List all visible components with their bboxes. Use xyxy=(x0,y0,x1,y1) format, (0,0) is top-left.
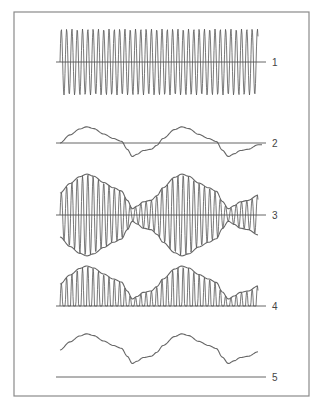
am-radio-diagram: 1 2 3 4 5 xyxy=(0,0,315,401)
modulation-envelope-top xyxy=(60,174,258,209)
panel-4-rectified-wave: 4 xyxy=(56,266,278,312)
rectified-wave xyxy=(60,267,258,306)
recovered-audio-wave xyxy=(60,334,258,364)
rectified-envelope xyxy=(60,266,258,299)
audio-signal-wave xyxy=(60,127,262,157)
panel-label-5: 5 xyxy=(272,372,278,383)
panel-label-2: 2 xyxy=(272,138,278,149)
panel-1-carrier-wave: 1 xyxy=(56,29,278,95)
diagram-frame xyxy=(14,12,309,396)
panel-3-modulated-wave: 3 xyxy=(56,174,278,256)
panel-label-4: 4 xyxy=(272,301,278,312)
panel-label-3: 3 xyxy=(272,210,278,221)
panel-label-1: 1 xyxy=(272,57,278,68)
panel-2-audio-signal: 2 xyxy=(56,127,278,157)
panel-5-recovered-audio: 5 xyxy=(56,334,278,383)
